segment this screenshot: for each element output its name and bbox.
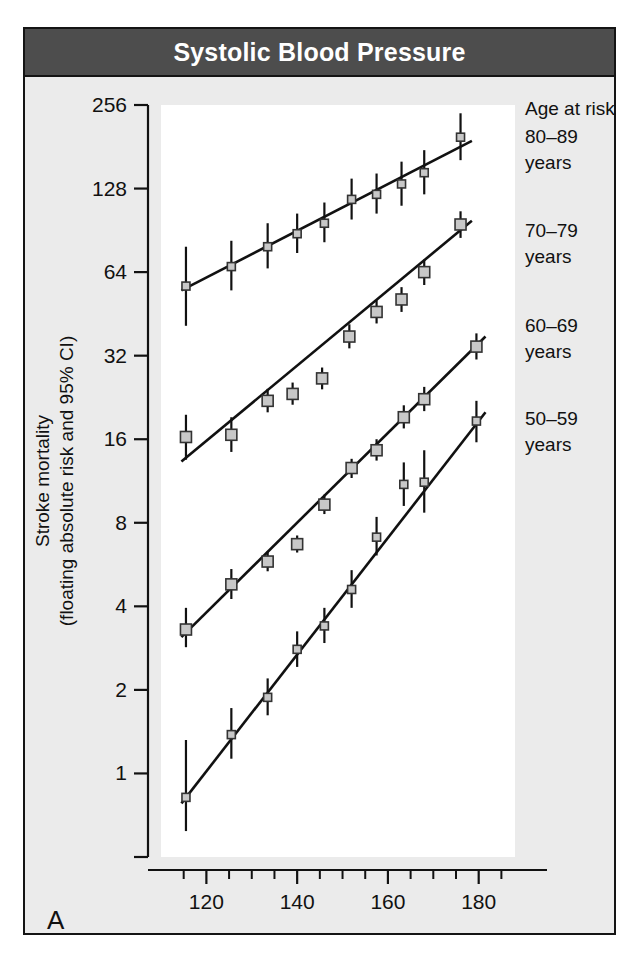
y-axis-tick-label: 32 <box>104 344 127 367</box>
legend: Age at risk80–89years70–79years60–69year… <box>525 98 614 455</box>
data-point-marker[interactable] <box>293 230 301 238</box>
data-point-marker[interactable] <box>264 243 272 251</box>
page-title: Systolic Blood Pressure <box>173 38 465 67</box>
data-point-marker[interactable] <box>226 579 237 590</box>
y-axis-tick-label: 16 <box>104 427 127 450</box>
y-axis-title: Stroke mortality(floating absolute risk … <box>32 336 77 626</box>
legend-item-age-range: 60–69 <box>525 315 578 336</box>
data-point-marker[interactable] <box>471 341 482 352</box>
legend-item-years: years <box>525 341 571 362</box>
data-point-marker[interactable] <box>262 556 273 567</box>
legend-item-years: years <box>525 434 571 455</box>
data-point-marker[interactable] <box>262 395 273 406</box>
data-point-marker[interactable] <box>180 431 191 442</box>
data-point-marker[interactable] <box>419 267 430 278</box>
data-point-marker[interactable] <box>227 263 235 271</box>
data-point-marker[interactable] <box>398 180 406 188</box>
figure-panel: Systolic Blood Pressure 2561286432168421… <box>23 27 616 935</box>
chart-title-bar: Systolic Blood Pressure <box>25 29 614 77</box>
data-point-marker[interactable] <box>420 478 428 486</box>
legend-item-age-range: 50–59 <box>525 408 578 429</box>
x-axis-tick-label: 140 <box>280 890 315 913</box>
y-axis-title-line: Stroke mortality <box>32 415 53 547</box>
y-axis-tick-label: 256 <box>92 93 127 116</box>
data-point-marker[interactable] <box>320 622 328 630</box>
legend-heading: Age at risk <box>525 98 614 119</box>
data-point-marker[interactable] <box>371 306 382 317</box>
legend-item-years: years <box>525 152 571 173</box>
y-axis-tick-label: 128 <box>92 177 127 200</box>
plot-area-wrapper: 2561286432168421120140160180Stroke morta… <box>25 77 614 935</box>
y-axis-tick-label: 8 <box>115 511 127 534</box>
data-point-marker[interactable] <box>371 445 382 456</box>
data-point-marker[interactable] <box>398 412 409 423</box>
data-point-marker[interactable] <box>472 417 480 425</box>
y-axis-tick-label: 1 <box>115 761 127 784</box>
data-point-marker[interactable] <box>400 480 408 488</box>
data-point-marker[interactable] <box>373 533 381 541</box>
legend-item-years: years <box>525 246 571 267</box>
x-axis-tick-label: 180 <box>461 890 496 913</box>
data-point-marker[interactable] <box>457 133 465 141</box>
panel-label: A <box>47 905 65 935</box>
data-point-marker[interactable] <box>373 190 381 198</box>
data-point-marker[interactable] <box>319 499 330 510</box>
data-point-marker[interactable] <box>293 645 301 653</box>
data-point-marker[interactable] <box>226 429 237 440</box>
data-point-marker[interactable] <box>348 195 356 203</box>
y-axis-title-line: (floating absolute risk and 95% CI) <box>56 336 77 626</box>
data-point-marker[interactable] <box>346 463 357 474</box>
data-point-marker[interactable] <box>396 294 407 305</box>
legend-item-age-range: 80–89 <box>525 126 578 147</box>
data-point-marker[interactable] <box>287 388 298 399</box>
data-point-marker[interactable] <box>348 585 356 593</box>
y-axis-tick-label: 64 <box>104 260 128 283</box>
data-point-marker[interactable] <box>320 219 328 227</box>
x-axis-tick-label: 120 <box>189 890 224 913</box>
x-axis-tick-label: 160 <box>370 890 405 913</box>
legend-item-age-range: 70–79 <box>525 220 578 241</box>
data-point-marker[interactable] <box>180 624 191 635</box>
data-point-marker[interactable] <box>455 219 466 230</box>
y-axis-tick-label: 4 <box>115 594 127 617</box>
stroke-mortality-chart: 2561286432168421120140160180Stroke morta… <box>25 77 614 935</box>
data-point-marker[interactable] <box>227 731 235 739</box>
data-point-marker[interactable] <box>419 394 430 405</box>
data-point-marker[interactable] <box>182 282 190 290</box>
data-point-marker[interactable] <box>292 539 303 550</box>
data-point-marker[interactable] <box>264 693 272 701</box>
data-point-marker[interactable] <box>344 331 355 342</box>
data-point-marker[interactable] <box>420 169 428 177</box>
data-point-marker[interactable] <box>317 373 328 384</box>
y-axis-tick-label: 2 <box>115 678 127 701</box>
data-point-marker[interactable] <box>182 793 190 801</box>
